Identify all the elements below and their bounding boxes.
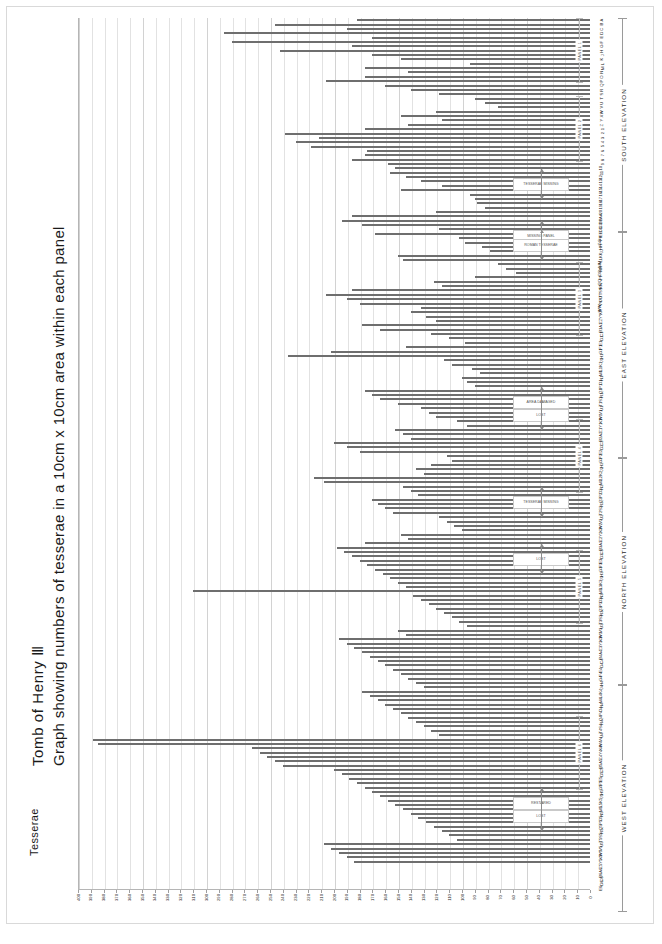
axis-tick bbox=[155, 890, 156, 893]
bar bbox=[416, 721, 590, 723]
bar bbox=[385, 664, 590, 666]
bracket-cap-top bbox=[618, 232, 627, 233]
panel-bracket: PANEL 5 bbox=[566, 550, 592, 624]
bar bbox=[252, 747, 590, 749]
bar bbox=[326, 294, 590, 296]
bracket-cap-top bbox=[576, 419, 583, 420]
bar bbox=[347, 643, 590, 645]
bar bbox=[385, 85, 590, 87]
elevation-label: EAST ELEVATION bbox=[618, 308, 629, 381]
bar bbox=[296, 141, 590, 143]
bar bbox=[360, 451, 590, 453]
bar bbox=[331, 848, 590, 850]
elevation-bracket: EAST ELEVATION bbox=[606, 232, 640, 459]
bar bbox=[393, 512, 590, 514]
bar bbox=[370, 656, 590, 658]
bar bbox=[224, 32, 590, 34]
bar bbox=[288, 355, 590, 357]
axis-tick bbox=[129, 890, 130, 893]
bar bbox=[395, 429, 590, 431]
category-label: E6 bbox=[590, 886, 604, 890]
axis-tick bbox=[308, 890, 309, 893]
axis-tick bbox=[257, 890, 258, 893]
axis-tick bbox=[488, 890, 489, 893]
bar bbox=[360, 303, 590, 305]
annotation-arrow bbox=[541, 544, 542, 574]
annotation-arrow bbox=[541, 801, 542, 831]
bar bbox=[398, 630, 590, 632]
bar bbox=[385, 704, 590, 706]
chart-page: Tomb of Henry Ⅲ Graph showing numbers of… bbox=[0, 0, 662, 944]
elevation-label: SOUTH ELEVATION bbox=[618, 85, 629, 165]
bar bbox=[193, 590, 590, 592]
bar bbox=[337, 547, 590, 549]
bar bbox=[352, 159, 590, 161]
axis-tick bbox=[334, 890, 335, 893]
bar bbox=[362, 691, 590, 693]
bracket-cap-top bbox=[576, 96, 583, 97]
bar bbox=[352, 215, 590, 217]
bar bbox=[311, 146, 590, 148]
bar bbox=[408, 124, 590, 126]
annotation-arrow bbox=[541, 169, 542, 199]
panel-bracket: PANEL 1 bbox=[566, 18, 592, 83]
axis-tick bbox=[283, 890, 284, 893]
bar bbox=[401, 673, 590, 675]
bar bbox=[98, 743, 590, 745]
axis-tick bbox=[436, 890, 437, 893]
bar bbox=[395, 167, 590, 169]
panel-label: PANEL 6 bbox=[576, 741, 583, 764]
bar bbox=[362, 651, 590, 653]
axis-tick bbox=[142, 890, 143, 893]
bar bbox=[352, 289, 590, 291]
bar bbox=[416, 468, 590, 470]
bar bbox=[393, 669, 590, 671]
bar bbox=[378, 660, 590, 662]
axis-tick bbox=[552, 890, 553, 893]
bracket-cap-top bbox=[618, 18, 627, 19]
bar bbox=[362, 324, 590, 326]
bar bbox=[398, 255, 590, 257]
bar bbox=[378, 699, 590, 701]
bar bbox=[401, 712, 590, 714]
axis-tick bbox=[449, 890, 450, 893]
axis-tick bbox=[296, 890, 297, 893]
panel-bracket: PANEL 4 bbox=[566, 419, 592, 493]
bar bbox=[372, 791, 590, 793]
bar bbox=[347, 446, 590, 448]
annotation-arrow bbox=[541, 230, 542, 260]
plot-area: TESSERAE MISSINGMISSING PANELROMAN TESSE… bbox=[78, 18, 590, 890]
panel-group-brackets: PANEL 1PANEL 2PANEL 3PANEL 4PANEL 5PANEL… bbox=[566, 18, 592, 890]
bar bbox=[411, 438, 590, 440]
bar bbox=[324, 843, 590, 845]
bar-series bbox=[79, 18, 590, 889]
bar bbox=[342, 773, 590, 775]
bar bbox=[365, 128, 590, 130]
annotation-arrow bbox=[541, 487, 542, 517]
axis-tick bbox=[424, 890, 425, 893]
bar bbox=[408, 678, 590, 680]
axis-tick bbox=[104, 890, 105, 893]
bar bbox=[413, 595, 590, 597]
axis-tick bbox=[321, 890, 322, 893]
bar bbox=[398, 582, 590, 584]
axis-tick bbox=[539, 890, 540, 893]
bracket-cap-bottom bbox=[576, 623, 583, 624]
axis-tick bbox=[232, 890, 233, 893]
bar bbox=[421, 307, 590, 309]
bar bbox=[411, 311, 590, 313]
bar-row bbox=[79, 859, 590, 863]
axis-tick bbox=[244, 890, 245, 893]
bar bbox=[406, 634, 590, 636]
bar bbox=[421, 599, 590, 601]
bar bbox=[275, 24, 590, 26]
axis-tick bbox=[462, 890, 463, 893]
bar bbox=[401, 58, 590, 60]
bar bbox=[372, 54, 590, 56]
bracket-cap-bottom bbox=[576, 789, 583, 790]
bar bbox=[365, 67, 590, 69]
bar bbox=[406, 586, 590, 588]
axis-tick bbox=[206, 890, 207, 893]
elevation-label: WEST ELEVATION bbox=[618, 761, 629, 836]
axis-tick bbox=[411, 890, 412, 893]
